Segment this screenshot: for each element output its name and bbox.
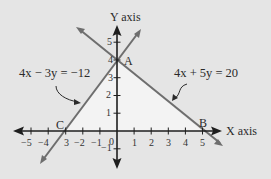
x-tick-label: −4 [38,138,49,148]
x-tick-label: 4 [183,138,188,148]
x-tick-label: 2 [149,138,154,148]
x-tick-label: 3 [64,138,69,148]
point-a-label: A [124,55,133,67]
x-axis-label: X axis [226,125,257,137]
x-tick-label: −2 [74,138,85,148]
equation-label-2: 4x + 5y = 20 [174,67,238,80]
y-tick-label: 4 [108,55,113,65]
arrowhead-icon [172,94,178,101]
y-axis-label: Y axis [110,11,141,23]
x-tick-label: −5 [21,138,32,148]
y-tick-label: 1 [106,108,111,118]
x-tick-label: 5 [200,138,205,148]
equation-label-1: 4x − 3y = −12 [19,67,90,80]
point-c-label: C [56,119,64,131]
graph-canvas [0,0,271,179]
y-tick-label: −1 [101,143,112,153]
x-tick-label: 1 [132,138,137,148]
y-tick-label: 3 [108,73,113,83]
y-tick-label: 5 [107,37,112,47]
y-tick-label: 2 [106,90,111,100]
arrowhead-icon [74,99,81,105]
point-b-label: B [199,117,207,129]
x-tick-label: 3 [166,138,171,148]
